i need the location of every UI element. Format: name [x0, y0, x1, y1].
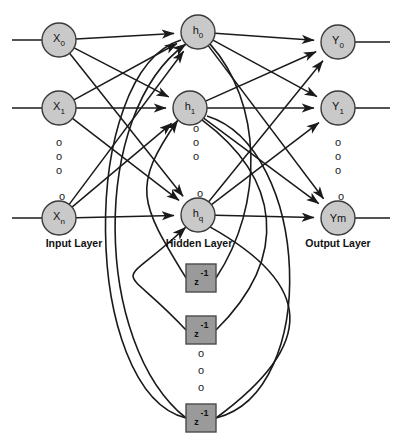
delay-exponent-1: -1 [200, 321, 208, 330]
ellipsis-dot-hidden-column-4: o [193, 122, 199, 134]
edge-input-hidden [74, 44, 177, 100]
ellipsis-dot-delay-column-13: o [198, 364, 204, 376]
node-subscript-output-0: 0 [339, 41, 343, 50]
edge-hidden-output [204, 118, 319, 204]
layer-label-output: Output Layer [305, 237, 370, 249]
node-label-input-2: Xn [53, 210, 65, 225]
delay-exponent-2: -1 [200, 409, 208, 418]
layer-label-input: Input Layer [46, 237, 103, 249]
node-label-hidden-0: h0 [193, 24, 204, 39]
delay-base-2: z [193, 418, 199, 427]
ellipsis-dot-input-column-2: o [56, 164, 62, 176]
ellipsis-dot-delay-column-12: o [198, 347, 204, 359]
ellipsis-dot-input-column-0: o [56, 136, 62, 148]
delay-base-0: z [193, 278, 199, 287]
node-subscript-hidden-2: q [199, 214, 203, 223]
node-label-output-0: Y0 [332, 34, 344, 49]
node-name-output-2: Ym [330, 212, 347, 224]
delay-to-hidden-feedback-edges [105, 40, 186, 418]
node-subscript-input-0: 0 [60, 39, 64, 48]
node-label-hidden-1: h1 [185, 100, 196, 115]
edge-hidden-output [209, 61, 323, 202]
ellipsis-dot-delay-column-14: o [198, 381, 204, 393]
delay-exponent-0: -1 [200, 269, 208, 278]
delay-base-1: z [193, 330, 199, 339]
ellipsis-dot-input-column-3: o [59, 190, 65, 202]
edge-input-hidden [76, 216, 174, 218]
node-label-input-0: X0 [53, 32, 65, 47]
ellipsis-dot-output-column-10: o [335, 164, 341, 176]
edge-input-hidden [72, 123, 172, 207]
node-subscript-output-1: 1 [339, 107, 343, 116]
feedback-long-left [105, 40, 186, 418]
layer-label-hidden: Hidden Layer [166, 237, 233, 249]
hidden-to-output-edges [204, 33, 324, 217]
node-subscript-hidden-1: 1 [191, 107, 195, 116]
ellipsis-dot-hidden-column-6: o [193, 150, 199, 162]
edge-input-hidden [76, 33, 174, 39]
node-subscript-input-1: 1 [60, 107, 64, 116]
hidden-to-delay-feedback-edges [202, 44, 290, 418]
ellipsis-dot-output-column-9: o [335, 150, 341, 162]
feedback-in-0 [147, 120, 186, 278]
node-label-hidden-2: hq [193, 207, 204, 222]
node-label-output-2: Ym [330, 212, 347, 224]
ellipsis-dot-hidden-column-7: o [197, 187, 203, 199]
node-label-input-1: X1 [53, 100, 65, 115]
ellipsis-dot-output-column-11: o [338, 190, 344, 202]
delay-block-label-1: -1z [193, 321, 208, 339]
feedback-out-2 [210, 227, 290, 418]
node-label-output-1: Y1 [332, 100, 344, 115]
ellipsis-dot-output-column-8: o [335, 136, 341, 148]
delay-block-label-0: -1z [193, 269, 208, 287]
edge-hidden-output [215, 215, 314, 217]
edge-hidden-output [215, 33, 314, 40]
node-subscript-hidden-0: 0 [199, 31, 203, 40]
delay-block-label-2: -1z [193, 409, 208, 427]
feedback-long-right [207, 116, 290, 418]
ellipsis-dot-hidden-column-5: o [193, 136, 199, 148]
ellipsis-dot-input-column-1: o [56, 150, 62, 162]
node-subscript-input-2: n [60, 217, 64, 226]
